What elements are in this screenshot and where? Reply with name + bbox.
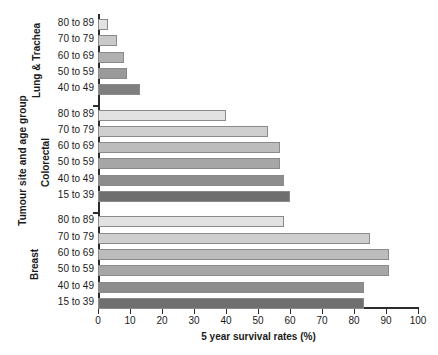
bar bbox=[98, 126, 268, 137]
x-axis-tick bbox=[226, 309, 227, 314]
x-axis-tick-label: 70 bbox=[316, 315, 327, 326]
bar bbox=[98, 158, 280, 169]
bar bbox=[98, 52, 124, 63]
x-axis-tick-label: 90 bbox=[380, 315, 391, 326]
category-label: 70 to 79 bbox=[38, 33, 94, 44]
x-axis-tick bbox=[418, 309, 419, 314]
bar bbox=[98, 19, 108, 30]
category-label-layer: 80 to 8970 to 7960 to 6950 to 5940 to 49… bbox=[30, 0, 94, 355]
x-axis-tick-label: 20 bbox=[156, 315, 167, 326]
bar bbox=[98, 35, 117, 46]
category-label: 50 to 59 bbox=[38, 66, 94, 77]
x-axis-tick bbox=[258, 309, 259, 314]
x-axis-tick-label: 100 bbox=[410, 315, 427, 326]
bar bbox=[98, 84, 140, 95]
x-axis-tick-label: 50 bbox=[252, 315, 263, 326]
bar bbox=[98, 142, 280, 153]
bar bbox=[98, 110, 226, 121]
category-label: 60 to 69 bbox=[38, 247, 94, 258]
bar bbox=[98, 233, 370, 244]
bar bbox=[98, 216, 284, 227]
x-axis-tick bbox=[98, 309, 99, 314]
x-axis-tick bbox=[322, 309, 323, 314]
category-label: 70 to 79 bbox=[38, 124, 94, 135]
x-axis-tick bbox=[354, 309, 355, 314]
x-axis-tick-label: 0 bbox=[95, 315, 101, 326]
y-axis-group-tick bbox=[93, 212, 99, 214]
x-axis-tick bbox=[162, 309, 163, 314]
bar bbox=[98, 191, 290, 202]
category-label: 40 to 49 bbox=[38, 280, 94, 291]
bar bbox=[98, 298, 364, 309]
category-label: 15 to 39 bbox=[38, 189, 94, 200]
category-label: 50 to 59 bbox=[38, 156, 94, 167]
bar bbox=[98, 175, 284, 186]
category-label: 80 to 89 bbox=[38, 214, 94, 225]
x-axis-tick-label: 10 bbox=[124, 315, 135, 326]
x-axis-tick bbox=[290, 309, 291, 314]
y-axis-group-tick bbox=[93, 105, 99, 107]
category-label: 70 to 79 bbox=[38, 231, 94, 242]
category-label: 15 to 39 bbox=[38, 296, 94, 307]
x-axis-tick bbox=[386, 309, 387, 314]
x-axis-tick-label: 30 bbox=[188, 315, 199, 326]
bar bbox=[98, 68, 127, 79]
bar bbox=[98, 265, 389, 276]
category-label: 80 to 89 bbox=[38, 17, 94, 28]
category-label: 40 to 49 bbox=[38, 82, 94, 93]
bar bbox=[98, 249, 389, 260]
category-label: 40 to 49 bbox=[38, 173, 94, 184]
bar-chart: Tumour site and age group Lung & Trachea… bbox=[0, 0, 438, 355]
x-axis-tick bbox=[130, 309, 131, 314]
category-label: 50 to 59 bbox=[38, 263, 94, 274]
category-label: 60 to 69 bbox=[38, 140, 94, 151]
y-axis-title: Tumour site and age group bbox=[17, 61, 28, 261]
x-axis-tick bbox=[194, 309, 195, 314]
x-axis-tick-label: 60 bbox=[284, 315, 295, 326]
bar bbox=[98, 282, 364, 293]
x-axis-tick-label: 40 bbox=[220, 315, 231, 326]
x-axis-tick-label: 80 bbox=[348, 315, 359, 326]
category-label: 80 to 89 bbox=[38, 108, 94, 119]
x-axis-title: 5 year survival rates (%) bbox=[98, 331, 419, 342]
plot-area bbox=[98, 14, 418, 308]
category-label: 60 to 69 bbox=[38, 50, 94, 61]
